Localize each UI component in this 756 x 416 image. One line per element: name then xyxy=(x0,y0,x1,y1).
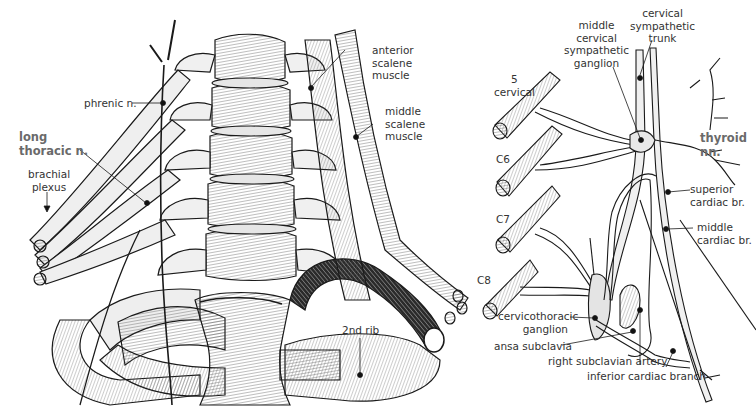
anatomy-figure: phrenic n. long thoracic n. brachial ple… xyxy=(0,0,756,416)
label-c5-cervical: 5 cervical xyxy=(494,73,535,98)
label-right-subclavian-artery: right subclavian artery xyxy=(548,355,667,368)
label-superior-cardiac-branch: superior cardiac br. xyxy=(690,183,745,208)
label-phrenic-nerve: phrenic n. xyxy=(84,97,137,110)
label-cervical-sympathetic-trunk: cervical sympathetic trunk xyxy=(630,7,695,45)
label-c7: C7 xyxy=(496,213,510,226)
label-long-thoracic-nerve: long thoracic n. xyxy=(19,130,88,158)
label-c8: C8 xyxy=(477,274,491,287)
label-second-rib: 2nd rib xyxy=(342,324,379,337)
label-middle-cervical-ganglion: middle cervical sympathetic ganglion xyxy=(564,19,629,69)
label-middle-scalene: middle scalene muscle xyxy=(385,105,425,143)
label-brachial-plexus: brachial plexus xyxy=(28,168,70,193)
label-cervicothoracic-ganglion: cervicothoracic ganglion xyxy=(498,310,568,335)
label-c6: C6 xyxy=(496,153,510,166)
label-thyroid-nerves: thyroid nn. xyxy=(700,131,747,159)
label-inferior-cardiac-branch: inferior cardiac branch xyxy=(587,370,706,383)
label-anterior-scalene: anterior scalene muscle xyxy=(372,44,414,82)
label-ansa-subclavia: ansa subclavia xyxy=(494,340,572,353)
label-middle-cardiac-branch: middle cardiac br. xyxy=(697,221,752,246)
